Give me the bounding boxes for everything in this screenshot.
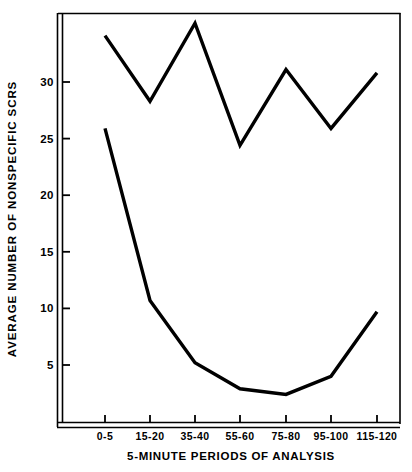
- x-axis-title: 5-MINUTE PERIODS OF ANALYSIS: [60, 450, 402, 462]
- figure-chart: 51015202530 0-515-2035-4055-6075-8095-10…: [0, 0, 412, 472]
- x-tick-label: 115-120: [342, 430, 412, 442]
- y-axis-title: AVERAGE NUMBER OF NONSPECIFIC SCRS: [0, 0, 26, 472]
- y-axis-title-text: AVERAGE NUMBER OF NONSPECIFIC SCRS: [6, 81, 20, 391]
- x-tick-label-group: 0-515-2035-4055-6075-8095-100115-120: [0, 0, 412, 472]
